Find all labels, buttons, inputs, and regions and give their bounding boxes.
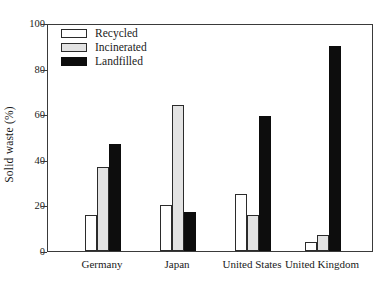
x-tick-label: United States [223,258,282,270]
legend-swatch-recycled-icon [61,29,87,38]
bar-united-states-landfilled [259,116,271,251]
bar-united-kingdom-recycled [305,242,317,251]
bar-united-kingdom-incinerated [317,235,329,251]
bar-japan-incinerated [172,105,184,251]
bar-germany-incinerated [97,167,109,251]
bar-germany-landfilled [109,144,121,251]
bar-united-kingdom-landfilled [329,46,341,251]
bar-united-states-recycled [235,194,247,251]
bar-chart: Solid waste (%) 020406080100 GermanyJapa… [0,0,392,289]
legend-swatch-landfilled-icon [61,57,87,66]
legend-label: Landfilled [95,56,143,68]
legend-item-recycled: Recycled [61,27,147,40]
legend-label: Incinerated [95,42,147,54]
bar-japan-recycled [160,205,172,251]
bar-united-states-incinerated [247,215,259,251]
x-tick-label: United Kingdom [285,258,359,270]
legend-swatch-incinerated-icon [61,43,87,52]
bar-germany-recycled [85,215,97,251]
legend-item-incinerated: Incinerated [61,41,147,54]
x-tick-label: Germany [82,258,123,270]
legend-label: Recycled [95,28,138,40]
x-tick-label: Japan [164,258,189,270]
y-tick-mark [41,252,47,253]
chart-legend: RecycledIncineratedLandfilled [61,27,147,69]
legend-item-landfilled: Landfilled [61,55,147,68]
y-axis-title: Solid waste (%) [0,0,18,289]
bar-japan-landfilled [184,212,196,251]
